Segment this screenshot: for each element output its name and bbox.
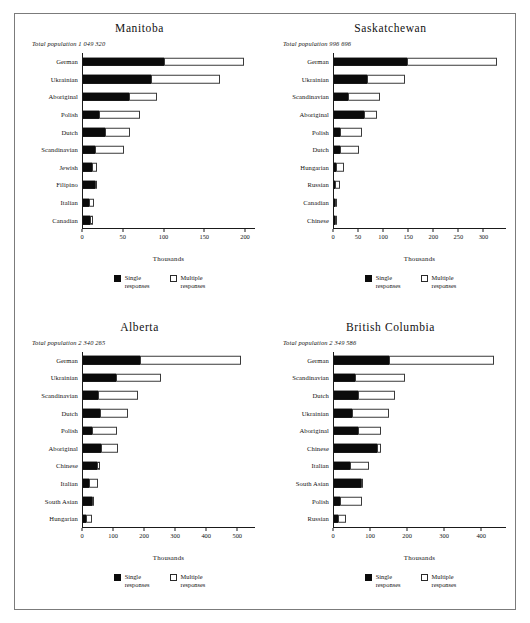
legend-item-single[interactable]: Singleresponses [365,274,401,291]
bar-row: Aboriginal [265,106,516,124]
category-label: Chinese [14,462,82,469]
category-label: Aboriginal [14,93,82,100]
axis-tick-label: 250 [454,233,464,240]
legend-label-line2: responses [376,282,401,289]
legend-item-single[interactable]: Singleresponses [114,573,150,590]
stacked-bar [333,444,381,453]
axis-tick-label: 0 [331,532,334,539]
axis-tick [163,229,164,232]
single-responses-segment [82,391,98,400]
axis-tick-label: 200 [240,233,250,240]
stacked-bar [82,374,161,383]
multiple-responses-segment [151,75,220,84]
category-label: Polish [14,111,82,118]
bar-row: Jewish [14,159,265,177]
bar-track [333,141,516,159]
legend-label-line2: responses [181,282,206,289]
legend-label-line2: responses [432,282,457,289]
axis-tick [333,528,334,531]
axis-tick-label: 150 [403,233,413,240]
legend-item-multiple[interactable]: Multipleresponses [170,573,206,590]
figure-page: ManitobaTotal population 1 049 320German… [0,0,530,623]
multiple-responses-segment [92,426,116,435]
bar-track [333,439,516,457]
single-responses-segment [333,444,377,453]
chart-subtitle: Total population 2 340 265 [32,339,265,346]
multiple-responses-segment [335,216,337,225]
category-label: Hungarian [14,515,82,522]
bar-row: Ukrainian [14,71,265,89]
bar-track [333,106,516,124]
multiple-responses-segment [140,356,241,365]
bar-row: Filipino [14,176,265,194]
plot-area: GermanUkrainianScandinavianAboriginalPol… [265,53,516,229]
multiple-responses-segment [92,163,96,172]
bar-row: Aboriginal [265,422,516,440]
legend-swatch-multiple-icon [170,574,177,581]
category-label: Polish [14,427,82,434]
legend-label-line2: responses [432,581,457,588]
stacked-bar [333,75,405,84]
multiple-responses-segment [361,479,363,488]
category-label: Jewish [14,164,82,171]
legend-label-line2: responses [125,282,150,289]
legend-item-multiple[interactable]: Multipleresponses [170,274,206,291]
legend-label: Singleresponses [125,274,150,291]
multiple-responses-segment [90,216,93,225]
chart-panel: AlbertaTotal population 2 340 265GermanU… [14,312,265,611]
bar-row: Italian [14,475,265,493]
bar-row: Hungarian [265,159,516,177]
y-axis-line [82,352,83,528]
legend-label-line1: Multiple [432,573,454,580]
bar-track [333,404,516,422]
multiple-responses-segment [358,391,395,400]
stacked-bar [333,110,377,119]
legend-item-multiple[interactable]: Multipleresponses [421,274,457,291]
single-responses-segment [82,356,140,365]
multiple-responses-segment [100,409,128,418]
legend-item-multiple[interactable]: Multipleresponses [421,573,457,590]
legend-label: Multipleresponses [432,573,457,590]
axis-tick [370,528,371,531]
axis-tick [444,528,445,531]
axis-tick [383,229,384,232]
stacked-bar [82,216,93,225]
legend-label: Singleresponses [125,573,150,590]
axis-tick-label: 0 [80,532,83,539]
chart-legend: SingleresponsesMultipleresponses [305,274,516,291]
chart-title: British Columbia [265,321,516,333]
bar-track [333,211,516,229]
single-responses-segment [82,444,101,453]
stacked-bar [82,444,118,453]
single-responses-segment [82,216,90,225]
bar-row: Aboriginal [14,439,265,457]
category-label: Scandinavian [265,374,333,381]
category-label: Polish [265,498,333,505]
chart-panel: British ColumbiaTotal population 2 349 5… [265,312,516,611]
bar-row: Chinese [265,439,516,457]
bar-row: Polish [265,492,516,510]
axis-tick [82,528,83,531]
multiple-responses-segment [92,497,94,506]
bar-row: Dutch [14,404,265,422]
legend-item-single[interactable]: Singleresponses [365,573,401,590]
legend-item-single[interactable]: Singleresponses [114,274,150,291]
bar-track [333,176,516,194]
bar-row: Scandinavian [265,88,516,106]
single-responses-segment [333,356,389,365]
bar-track [333,492,516,510]
category-label: Scandinavian [265,93,333,100]
axis-tick [82,229,83,232]
stacked-bar [333,391,395,400]
stacked-bar [333,146,359,155]
stacked-bar [82,75,220,84]
axis-tick-label: 500 [232,532,242,539]
axis-tick [481,528,482,531]
bar-row: Canadian [14,211,265,229]
category-label: German [14,58,82,65]
legend-label-line2: responses [125,581,150,588]
stacked-bar [333,93,380,102]
bar-row: Chinese [14,457,265,475]
plot-area: GermanScandinavianDutchUkrainianAborigin… [265,352,516,528]
category-label: South Asian [14,498,82,505]
